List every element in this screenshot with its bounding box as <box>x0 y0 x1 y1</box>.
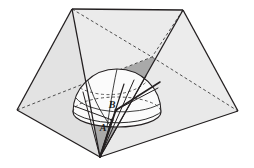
vertex-label-b: B <box>108 99 116 110</box>
geometry-figure: A B <box>0 0 254 168</box>
figure-canvas: A B <box>0 0 254 168</box>
point-marker-a <box>110 118 113 121</box>
vertex-label-a: A <box>99 122 107 133</box>
